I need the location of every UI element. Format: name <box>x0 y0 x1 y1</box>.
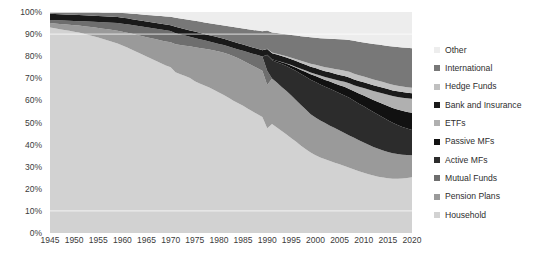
legend-swatch-icon <box>434 212 440 218</box>
legend-label: Active MFs <box>445 156 488 165</box>
legend-label: Pension Plans <box>445 192 500 201</box>
legend-swatch-icon <box>434 47 440 53</box>
x-tick-label: 1950 <box>65 236 84 245</box>
x-tick-label: 1965 <box>137 236 156 245</box>
y-tick-label: 100% <box>0 8 42 17</box>
x-tick-label: 1975 <box>185 236 204 245</box>
x-tick-label: 1990 <box>258 236 277 245</box>
legend-label: Hedge Funds <box>445 82 497 91</box>
legend-label: Household <box>445 211 486 220</box>
x-tick-label: 2000 <box>306 236 325 245</box>
x-tick-label: 2020 <box>403 236 422 245</box>
legend-swatch-icon <box>434 139 440 145</box>
legend-label: Mutual Funds <box>445 174 497 183</box>
y-tick-label: 60% <box>0 96 42 105</box>
legend-item-pension-plans[interactable]: Pension Plans <box>434 187 552 205</box>
x-tick-label: 2010 <box>354 236 373 245</box>
x-tick-label: 2005 <box>330 236 349 245</box>
x-tick-label: 1970 <box>161 236 180 245</box>
x-tick-label: 1945 <box>41 236 60 245</box>
x-axis: 1945195019551960196519701975198019851990… <box>50 236 412 252</box>
legend-swatch-icon <box>434 120 440 126</box>
y-tick-label: 10% <box>0 207 42 216</box>
legend-label: Passive MFs <box>445 137 494 146</box>
legend-item-etfs[interactable]: ETFs <box>434 114 552 132</box>
legend-label: Other <box>445 46 467 55</box>
legend-swatch-icon <box>434 175 440 181</box>
legend-label: ETFs <box>445 119 466 128</box>
x-tick-label: 1955 <box>89 236 108 245</box>
legend-label: International <box>445 64 492 73</box>
legend-swatch-icon <box>434 157 440 163</box>
legend-item-mutual-funds[interactable]: Mutual Funds <box>434 169 552 187</box>
x-tick-label: 2015 <box>378 236 397 245</box>
legend-item-bank-and-insurance[interactable]: Bank and Insurance <box>434 96 552 114</box>
stacked-area-svg <box>50 12 412 233</box>
x-tick-label: 1960 <box>113 236 132 245</box>
y-tick-label: 80% <box>0 52 42 61</box>
y-tick-label: 30% <box>0 162 42 171</box>
y-tick-label: 90% <box>0 30 42 39</box>
x-tick-label: 1980 <box>209 236 228 245</box>
legend-item-hedge-funds[interactable]: Hedge Funds <box>434 78 552 96</box>
x-tick-label: 1995 <box>282 236 301 245</box>
y-tick-label: 20% <box>0 185 42 194</box>
legend-item-international[interactable]: International <box>434 59 552 77</box>
chart-page: 0%10%20%30%40%50%60%70%80%90%100% 194519… <box>0 0 554 261</box>
plot-area <box>50 12 412 233</box>
y-axis: 0%10%20%30%40%50%60%70%80%90%100% <box>0 12 46 233</box>
chart-legend: OtherInternationalHedge FundsBank and In… <box>434 41 552 224</box>
legend-item-passive-mfs[interactable]: Passive MFs <box>434 132 552 150</box>
legend-swatch-icon <box>434 194 440 200</box>
legend-swatch-icon <box>434 65 440 71</box>
legend-item-active-mfs[interactable]: Active MFs <box>434 151 552 169</box>
x-tick-label: 1985 <box>234 236 253 245</box>
y-tick-label: 50% <box>0 118 42 127</box>
legend-swatch-icon <box>434 84 440 90</box>
y-tick-label: 40% <box>0 140 42 149</box>
legend-label: Bank and Insurance <box>445 101 521 110</box>
legend-item-household[interactable]: Household <box>434 206 552 224</box>
y-tick-label: 0% <box>0 229 42 238</box>
y-tick-label: 70% <box>0 74 42 83</box>
legend-swatch-icon <box>434 102 440 108</box>
legend-item-other[interactable]: Other <box>434 41 552 59</box>
